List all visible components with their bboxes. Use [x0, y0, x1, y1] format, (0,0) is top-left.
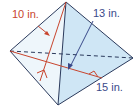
label-slant-height: 10 in. — [12, 8, 39, 20]
pyramid-diagram: 10 in. 13 in. 15 in. — [0, 0, 140, 111]
label-base-edge: 15 in. — [96, 81, 123, 93]
label-face-height: 13 in. — [93, 7, 120, 19]
